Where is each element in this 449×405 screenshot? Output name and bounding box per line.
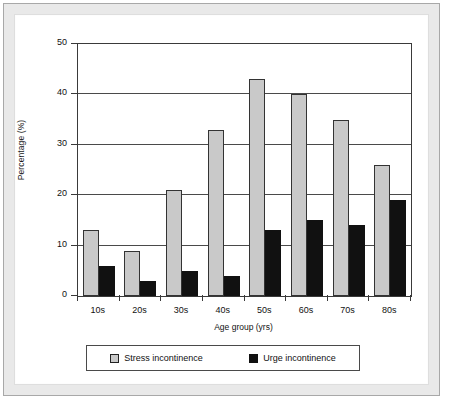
x-tick-label-50s: 50s (243, 305, 285, 315)
bar-stress-50s (249, 79, 265, 296)
bar-stress-20s (124, 251, 140, 296)
y-axis-title: Percentage (%) (16, 105, 26, 195)
x-tick-label-30s: 30s (160, 305, 202, 315)
x-tick-mark (368, 295, 369, 301)
bar-chart: Percentage (%) 01020304050 10s20s30s40s5… (0, 0, 449, 405)
bar-urge-40s (224, 276, 240, 296)
bar-stress-40s (208, 130, 224, 296)
bar-stress-80s (374, 165, 390, 296)
legend-label: Urge incontinence (263, 353, 336, 363)
bar-stress-60s (291, 94, 307, 296)
y-tick-label: 40 (37, 88, 67, 97)
gridline (78, 144, 411, 145)
x-tick-mark (160, 295, 161, 301)
x-tick-mark (119, 295, 120, 301)
bar-urge-50s (265, 230, 281, 296)
y-tick-label: 50 (37, 38, 67, 47)
bar-stress-10s (83, 230, 99, 296)
x-tick-label-40s: 40s (202, 305, 244, 315)
bar-urge-70s (349, 225, 365, 296)
x-tick-mark (77, 295, 78, 301)
x-tick-label-70s: 70s (327, 305, 369, 315)
bar-urge-60s (307, 220, 323, 296)
gridline (78, 194, 411, 195)
chart-legend: Stress incontinenceUrge incontinence (86, 345, 360, 371)
legend-entry-urge: Urge incontinence (249, 353, 336, 363)
gridline (78, 93, 411, 94)
y-tick-label: 20 (37, 189, 67, 198)
x-tick-mark (244, 295, 245, 301)
legend-swatch-urge-icon (249, 354, 258, 363)
x-tick-mark (202, 295, 203, 301)
y-tick-label: 0 (37, 290, 67, 299)
x-tick-mark (327, 295, 328, 301)
bar-urge-30s (182, 271, 198, 296)
x-axis-title: Age group (yrs) (77, 322, 410, 332)
x-tick-label-60s: 60s (285, 305, 327, 315)
plot-area (77, 43, 412, 297)
x-tick-label-10s: 10s (77, 305, 119, 315)
bar-stress-30s (166, 190, 182, 296)
legend-swatch-stress-icon (110, 354, 119, 363)
x-tick-mark (410, 295, 411, 301)
bar-urge-10s (99, 266, 115, 296)
bar-urge-20s (140, 281, 156, 296)
x-tick-label-80s: 80s (368, 305, 410, 315)
bar-urge-80s (390, 200, 406, 296)
bar-stress-70s (333, 120, 349, 296)
x-tick-mark (285, 295, 286, 301)
legend-entry-stress: Stress incontinence (110, 353, 203, 363)
y-tick-label: 10 (37, 240, 67, 249)
legend-label: Stress incontinence (124, 353, 203, 363)
y-tick-label: 30 (37, 139, 67, 148)
x-tick-label-20s: 20s (118, 305, 160, 315)
